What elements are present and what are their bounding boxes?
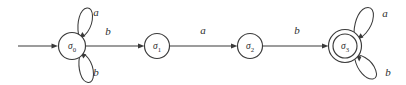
transition-q1-q2 xyxy=(170,43,238,48)
start-arrow xyxy=(18,43,58,48)
transition-label-q2-q3: b xyxy=(294,24,300,36)
self-loop-label-q3-a: a xyxy=(382,7,388,19)
self-loop-label-q0-b: b xyxy=(93,66,99,78)
transition-label-q0-q1: b xyxy=(105,25,111,37)
self-loop-q3-b xyxy=(355,54,376,79)
self-loop-label-q0-a: a xyxy=(93,6,99,18)
transition-q0-q1 xyxy=(86,43,145,48)
self-loop-label-q3-b: b xyxy=(385,66,391,78)
automaton-diagram: σ0 σ1 σ2 σ3 b a b a b a b xyxy=(0,0,406,85)
state-q2[interactable]: σ2 xyxy=(238,34,263,59)
transition-label-q1-q2: a xyxy=(200,24,206,36)
state-q0[interactable]: σ0 xyxy=(59,33,86,60)
self-loop-q0-a xyxy=(78,8,93,38)
state-q1[interactable]: σ1 xyxy=(145,34,170,59)
state-q3[interactable]: σ3 xyxy=(329,30,362,63)
transition-q2-q3 xyxy=(263,43,329,48)
self-loop-q0-b xyxy=(79,52,94,82)
